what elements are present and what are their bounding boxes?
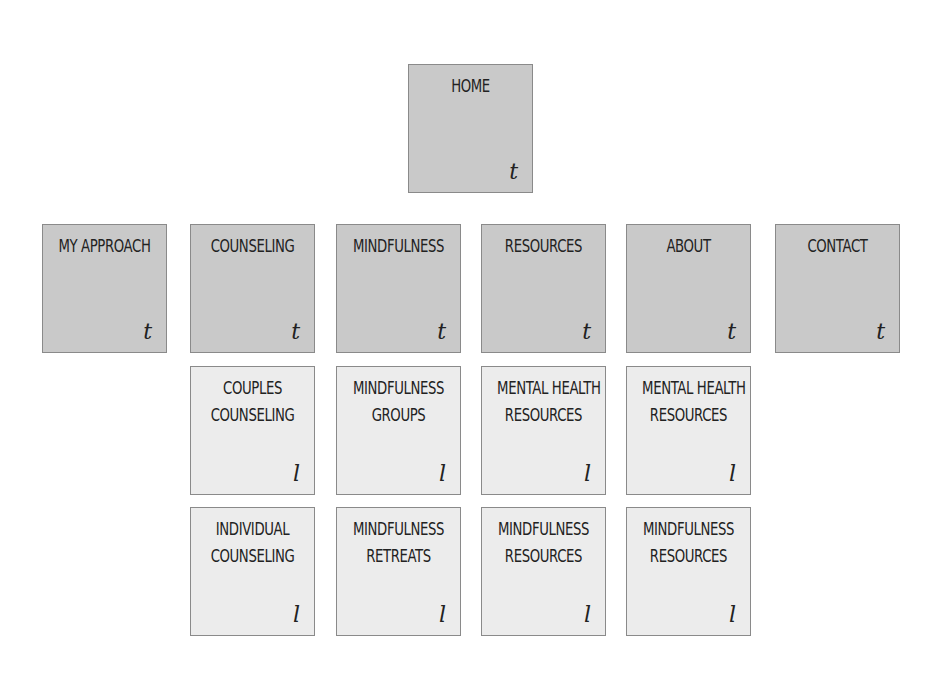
- tag-t-icon: t: [727, 319, 736, 344]
- card-individual-counseling[interactable]: INDIVIDUAL COUNSELING l: [190, 507, 315, 636]
- card-title-line: HOME: [424, 73, 517, 100]
- card-title-line: COUNSELING: [206, 543, 299, 570]
- card-couples-counseling[interactable]: COUPLES COUNSELING l: [190, 366, 315, 495]
- tag-l-icon: l: [439, 602, 446, 627]
- card-title: HOME: [424, 73, 517, 100]
- card-title-line: RESOURCES: [642, 543, 735, 570]
- card-title-line: ABOUT: [642, 233, 735, 260]
- tag-t-icon: t: [876, 319, 885, 344]
- card-title: INDIVIDUAL COUNSELING: [206, 516, 299, 570]
- card-my-approach[interactable]: MY APPROACH t: [42, 224, 167, 353]
- tag-l-icon: l: [439, 461, 446, 486]
- card-home[interactable]: HOME t: [408, 64, 533, 193]
- card-title: MINDFULNESS GROUPS: [352, 375, 445, 429]
- card-title-line: MENTAL HEALTH: [642, 375, 735, 402]
- card-title-line: COUNSELING: [206, 402, 299, 429]
- card-title: MY APPROACH: [58, 233, 151, 260]
- tag-t-icon: t: [582, 319, 591, 344]
- card-title: MINDFULNESS: [352, 233, 445, 260]
- card-title: MINDFULNESS RESOURCES: [497, 516, 590, 570]
- card-about[interactable]: ABOUT t: [626, 224, 751, 353]
- card-title-line: MENTAL HEALTH: [497, 375, 590, 402]
- card-contact[interactable]: CONTACT t: [775, 224, 900, 353]
- card-title: RESOURCES: [497, 233, 590, 260]
- tag-t-icon: t: [509, 159, 518, 184]
- card-title: MENTAL HEALTH RESOURCES: [642, 375, 735, 429]
- card-title: CONTACT: [791, 233, 884, 260]
- card-title-line: MINDFULNESS: [497, 516, 590, 543]
- tag-l-icon: l: [584, 461, 591, 486]
- card-title-line: MY APPROACH: [58, 233, 151, 260]
- card-mental-health-resources[interactable]: MENTAL HEALTH RESOURCES l: [481, 366, 606, 495]
- card-title-line: CONTACT: [791, 233, 884, 260]
- card-title-line: RESOURCES: [642, 402, 735, 429]
- card-title: COUPLES COUNSELING: [206, 375, 299, 429]
- tag-l-icon: l: [293, 461, 300, 486]
- card-title-line: COUNSELING: [206, 233, 299, 260]
- card-title-line: MINDFULNESS: [352, 233, 445, 260]
- tag-t-icon: t: [437, 319, 446, 344]
- card-mindfulness-groups[interactable]: MINDFULNESS GROUPS l: [336, 366, 461, 495]
- card-title-line: RESOURCES: [497, 233, 590, 260]
- card-title: ABOUT: [642, 233, 735, 260]
- card-title-line: RETREATS: [352, 543, 445, 570]
- card-title-line: INDIVIDUAL: [206, 516, 299, 543]
- card-mindfulness[interactable]: MINDFULNESS t: [336, 224, 461, 353]
- tag-l-icon: l: [584, 602, 591, 627]
- tag-l-icon: l: [729, 602, 736, 627]
- card-title: COUNSELING: [206, 233, 299, 260]
- card-title-line: MINDFULNESS: [642, 516, 735, 543]
- card-title-line: GROUPS: [352, 402, 445, 429]
- tag-l-icon: l: [293, 602, 300, 627]
- card-title: MENTAL HEALTH RESOURCES: [497, 375, 590, 429]
- card-title-line: COUPLES: [206, 375, 299, 402]
- card-title: MINDFULNESS RESOURCES: [642, 516, 735, 570]
- card-resources[interactable]: RESOURCES t: [481, 224, 606, 353]
- card-about-mental-health-resources[interactable]: MENTAL HEALTH RESOURCES l: [626, 366, 751, 495]
- card-title-line: MINDFULNESS: [352, 516, 445, 543]
- card-about-mindfulness-resources[interactable]: MINDFULNESS RESOURCES l: [626, 507, 751, 636]
- tag-t-icon: t: [291, 319, 300, 344]
- card-counseling[interactable]: COUNSELING t: [190, 224, 315, 353]
- card-mindfulness-resources[interactable]: MINDFULNESS RESOURCES l: [481, 507, 606, 636]
- card-title-line: MINDFULNESS: [352, 375, 445, 402]
- card-mindfulness-retreats[interactable]: MINDFULNESS RETREATS l: [336, 507, 461, 636]
- tag-l-icon: l: [729, 461, 736, 486]
- tag-t-icon: t: [143, 319, 152, 344]
- card-title: MINDFULNESS RETREATS: [352, 516, 445, 570]
- card-title-line: RESOURCES: [497, 402, 590, 429]
- card-title-line: RESOURCES: [497, 543, 590, 570]
